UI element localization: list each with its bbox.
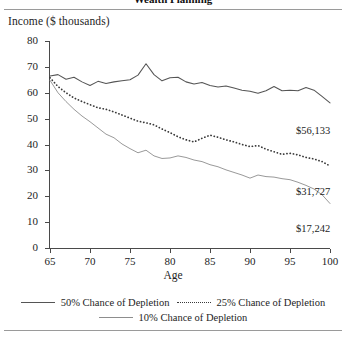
legend-item: 10% Chance of Depletion [99, 312, 248, 323]
legend-row-1: 50% Chance of Depletion25% Chance of Dep… [0, 295, 346, 310]
legend-label: 50% Chance of Depletion [61, 297, 170, 308]
label-25pct: $31,727 [296, 186, 330, 197]
series-line-2 [50, 80, 330, 203]
legend-item: 25% Chance of Depletion [177, 297, 326, 308]
series-line-1 [50, 78, 330, 166]
legend-swatch-icon [21, 299, 55, 307]
legend-swatch-icon [99, 314, 133, 322]
legend-label: 25% Chance of Depletion [217, 297, 326, 308]
legend-item: 50% Chance of Depletion [21, 297, 170, 308]
chart-figure: Wealth Planning Income ($ thousands) 010… [0, 0, 346, 339]
legend-swatch-icon [177, 299, 211, 307]
x-axis-caption: Age [0, 269, 346, 281]
label-50pct: $56,133 [296, 125, 330, 136]
label-10pct: $17,242 [296, 223, 330, 234]
legend-label: 10% Chance of Depletion [139, 312, 248, 323]
legend: 50% Chance of Depletion25% Chance of Dep… [0, 295, 346, 325]
legend-row-2: 10% Chance of Depletion [0, 310, 346, 325]
series-line-0 [50, 64, 330, 103]
divider-bottom [4, 330, 342, 331]
plot-lines [0, 0, 346, 339]
